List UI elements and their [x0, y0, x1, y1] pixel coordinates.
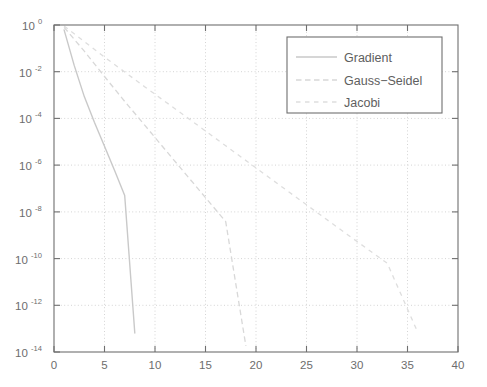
ytick-exponent-1e0: 0	[38, 17, 42, 26]
xtick-label-30: 30	[351, 359, 364, 371]
ytick-label-1e-14: 10 -14	[15, 344, 42, 359]
legend[interactable]: Gradient Gauss−Seidel Jacobi	[287, 37, 442, 113]
ytick-label-1e-2: 10 -2	[19, 64, 42, 79]
xtick-label-10: 10	[149, 359, 162, 371]
xtick-label-25: 25	[300, 359, 313, 371]
xtick-label-20: 20	[250, 359, 263, 371]
xtick-label-40: 40	[452, 359, 465, 371]
ytick-label-1e0: 10 0	[22, 17, 42, 32]
x-axis-tick-labels: 0 5 10 15 20 25 30 35 40	[51, 359, 465, 371]
ytick-exponent-1e-4: -4	[35, 110, 42, 119]
ytick-label-1e-8: 10 -8	[19, 204, 42, 219]
ytick-base-1e-4: 10	[19, 113, 32, 125]
ytick-base-1e-8: 10	[19, 207, 32, 219]
ytick-label-1e-12: 10 -12	[15, 297, 42, 312]
xtick-label-0: 0	[51, 359, 57, 371]
ytick-base-1e-6: 10	[19, 160, 32, 172]
ytick-base-1e-10: 10	[15, 254, 28, 266]
legend-label-gradient: Gradient	[344, 51, 392, 65]
ytick-base-1e-14: 10	[15, 347, 28, 359]
convergence-plot: 0 5 10 15 20 25 30 35 40 10 0 10 -2 10 -…	[0, 0, 487, 387]
ytick-exponent-1e-12: -12	[31, 297, 42, 306]
xtick-label-5: 5	[101, 359, 107, 371]
ytick-label-1e-4: 10 -4	[19, 110, 42, 125]
xtick-label-15: 15	[199, 359, 212, 371]
ytick-exponent-1e-10: -10	[31, 251, 42, 260]
ytick-exponent-1e-8: -8	[35, 204, 42, 213]
ytick-label-1e-6: 10 -6	[19, 157, 42, 172]
ytick-label-1e-10: 10 -10	[15, 251, 42, 266]
ytick-exponent-1e-6: -6	[35, 157, 42, 166]
legend-label-jacobi: Jacobi	[344, 96, 380, 110]
legend-label-gauss-seidel: Gauss−Seidel	[344, 74, 422, 88]
ytick-base-1e-2: 10	[19, 67, 32, 79]
y-axis-tick-labels: 10 0 10 -2 10 -4 10 -6 10 -8 10 -10	[15, 17, 42, 359]
ytick-base-1e0: 10	[22, 20, 35, 32]
figure-canvas: 0 5 10 15 20 25 30 35 40 10 0 10 -2 10 -…	[0, 0, 487, 387]
xtick-label-35: 35	[401, 359, 414, 371]
ytick-base-1e-12: 10	[15, 300, 28, 312]
ytick-exponent-1e-2: -2	[35, 64, 42, 73]
ytick-exponent-1e-14: -14	[31, 344, 42, 353]
